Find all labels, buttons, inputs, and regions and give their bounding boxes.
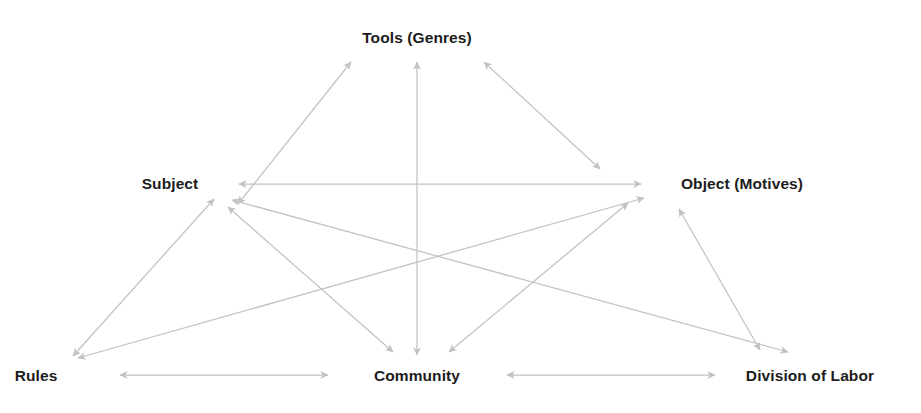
node-rules: Rules (15, 368, 58, 384)
activity-system-diagram: Tools (Genres) Subject Object (Motives) … (0, 0, 921, 413)
edge-layer (0, 0, 921, 413)
edge-subject-community (228, 207, 393, 352)
edge-object-rules (78, 198, 644, 358)
edge-tools-object (484, 62, 600, 169)
node-object: Object (Motives) (681, 176, 803, 192)
node-division-of-labor: Division of Labor (746, 368, 874, 384)
node-tools: Tools (Genres) (362, 30, 472, 46)
node-community: Community (374, 368, 460, 384)
edge-subject-tools (238, 62, 351, 204)
edge-group (73, 62, 788, 375)
edge-object-division (679, 209, 760, 350)
edge-subject-rules (73, 199, 214, 356)
edge-object-community (449, 203, 628, 352)
node-subject: Subject (142, 176, 199, 192)
edge-subject-division (232, 200, 788, 352)
